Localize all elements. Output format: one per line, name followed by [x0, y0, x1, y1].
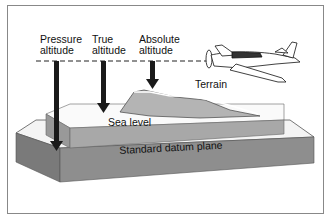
pressure-altitude-label: Pressure altitude [40, 34, 82, 56]
absolute-altitude-arrow [146, 61, 159, 89]
true-altitude-label: True altitude [92, 34, 126, 56]
airplane-icon [206, 42, 300, 82]
terrain-label: Terrain [195, 79, 227, 90]
sea-level-label: Sea level [108, 117, 151, 128]
absolute-altitude-label: Absolute altitude [139, 34, 180, 56]
true-altitude-arrow [97, 61, 110, 113]
